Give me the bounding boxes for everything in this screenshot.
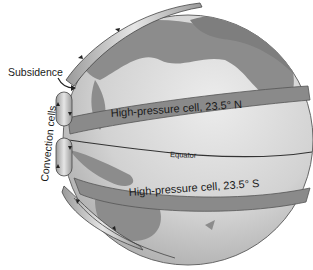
convection-cells-label: Convection cells [38, 105, 58, 182]
convection-diagram: Subsidence Convection cells High-pressur… [0, 0, 313, 270]
equator-label: Equator [170, 150, 197, 160]
subsidence-label: Subsidence [8, 66, 63, 78]
cell-lower [56, 138, 72, 176]
cell-upper [56, 92, 72, 126]
arrow-icon [78, 55, 83, 59]
